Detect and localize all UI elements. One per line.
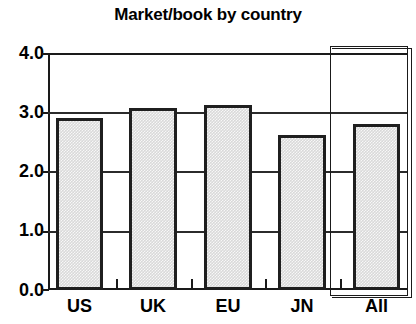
bar-us[interactable] xyxy=(56,118,103,290)
x-tick-label-jn: JN xyxy=(278,294,326,318)
minor-tick-4 xyxy=(340,279,342,290)
x-axis-labels: US UK EU JN All xyxy=(48,294,408,322)
bar-all[interactable] xyxy=(353,124,400,290)
bar-eu[interactable] xyxy=(204,105,252,291)
chart-container: Market/book by country 0.0 1.0 2.0 3.0 4… xyxy=(0,0,416,324)
plot-area xyxy=(48,53,408,290)
y-axis-ticks xyxy=(0,53,49,290)
minor-tick-3 xyxy=(265,279,267,290)
x-tick-label-us: US xyxy=(56,294,103,318)
bar-jn[interactable] xyxy=(278,135,326,290)
minor-tick-1 xyxy=(116,279,118,290)
x-tick-label-all: All xyxy=(353,294,400,318)
x-tick-label-eu: EU xyxy=(204,294,252,318)
chart-title: Market/book by country xyxy=(0,4,416,26)
bar-uk[interactable] xyxy=(129,108,177,291)
minor-tick-2 xyxy=(191,279,193,290)
x-tick-label-uk: UK xyxy=(129,294,177,318)
